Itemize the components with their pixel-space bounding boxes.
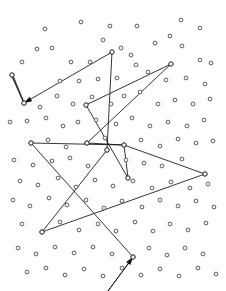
scatter-point <box>69 60 73 64</box>
scatter-point <box>158 267 162 271</box>
tour-node <box>122 143 126 147</box>
scatter-point <box>58 220 62 224</box>
scatter-point <box>111 184 115 188</box>
scatter-point <box>77 79 81 83</box>
scatter-point <box>188 186 192 190</box>
scatter-point <box>72 251 76 255</box>
scatter-point <box>186 228 190 232</box>
scatter-point <box>165 253 169 257</box>
scatter-point <box>147 246 151 250</box>
scatter-point <box>50 159 54 163</box>
scatter-point <box>160 164 164 168</box>
scatter-point <box>63 273 67 277</box>
scatter-point <box>108 24 112 28</box>
scatter-point <box>94 118 98 122</box>
scatter-point <box>114 229 118 233</box>
tour-node <box>169 62 173 66</box>
scatter-point <box>96 77 100 81</box>
scatter-point <box>164 78 168 82</box>
scatter-point <box>169 180 173 184</box>
scatter-point <box>74 185 78 189</box>
scatter-point <box>115 76 119 80</box>
scatter-point <box>180 44 184 48</box>
scatter-point <box>211 139 215 143</box>
scatter-point <box>138 90 142 94</box>
scatter-point <box>209 61 213 65</box>
scatter-point <box>61 124 65 128</box>
scatter-point <box>148 124 152 128</box>
tour-node <box>110 50 114 54</box>
scatter-point <box>202 118 206 122</box>
scatter-point <box>96 222 100 226</box>
scatter-point <box>101 274 105 278</box>
scatter-point <box>124 158 128 162</box>
scatter-point <box>183 246 187 250</box>
scatter-point <box>201 252 205 256</box>
scatter-point <box>11 198 15 202</box>
scatter-point <box>38 105 42 109</box>
scatter-point <box>153 41 157 45</box>
scatter-point <box>93 178 97 182</box>
scatter-point <box>156 102 160 106</box>
scatter-point <box>142 161 146 165</box>
scatter-point <box>168 222 172 226</box>
scatter-point <box>179 18 183 22</box>
scatter-point <box>176 204 180 208</box>
scatter-point <box>76 120 80 124</box>
scatter-point <box>173 98 177 102</box>
scatter-point <box>114 122 118 126</box>
scatter-point <box>196 266 200 270</box>
scatter-point <box>151 229 155 233</box>
scatter-point <box>20 60 24 64</box>
scatter-point <box>120 266 124 270</box>
scatter-point <box>65 203 69 207</box>
scatter-point <box>31 163 35 167</box>
scatter-point <box>206 182 210 186</box>
scatter-point <box>91 245 95 249</box>
scatter-point <box>86 164 90 168</box>
scatter-point <box>120 199 124 203</box>
scatter-point <box>103 136 107 140</box>
tour-node <box>84 103 88 107</box>
scatter-point <box>28 204 32 208</box>
scatter-point <box>204 221 208 225</box>
scatter-point <box>35 47 39 51</box>
scatter-point <box>185 124 189 128</box>
scatter-point <box>77 228 81 232</box>
figure-canvas <box>0 0 226 291</box>
scatter-point <box>46 138 50 142</box>
scatter-point <box>109 102 113 106</box>
scatter-point <box>43 27 47 31</box>
scatter-point <box>68 156 72 160</box>
scatter-point <box>177 274 181 278</box>
scatter-point <box>158 144 162 148</box>
scatter-point <box>56 176 60 180</box>
scatter-point <box>16 246 20 250</box>
scatter-point <box>82 267 86 271</box>
scatter-point <box>71 102 75 106</box>
tour-node <box>10 73 14 77</box>
scatter-point <box>8 120 12 124</box>
scatter-point <box>184 76 188 80</box>
plot-background <box>0 0 226 291</box>
tour-node <box>203 172 207 176</box>
scatter-point <box>53 245 57 249</box>
tour-node <box>29 141 33 145</box>
scatter-point <box>102 206 106 210</box>
tour-node <box>131 255 135 259</box>
scatter-point <box>122 94 126 98</box>
scatter-point <box>212 205 216 209</box>
scatter-point <box>44 266 48 270</box>
tour-node <box>40 230 44 234</box>
scatter-point <box>139 273 143 277</box>
scatter-point <box>58 79 62 83</box>
scatter-point <box>101 38 105 42</box>
scatter-point <box>133 220 137 224</box>
scatter-point <box>166 120 170 124</box>
scatter-point <box>194 199 198 203</box>
tour-node <box>105 148 109 152</box>
scatter-point <box>130 116 134 120</box>
scatter-point <box>131 179 135 183</box>
scatter-point <box>12 158 16 162</box>
scatter-point <box>191 102 195 106</box>
